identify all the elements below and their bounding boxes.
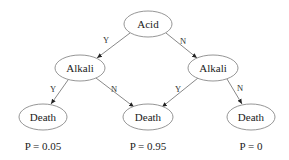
node-alkali-left: Alkali: [55, 55, 105, 81]
node-label: Alkali: [66, 62, 94, 74]
node-label: Death: [30, 111, 57, 123]
probability-label: P = 0: [240, 140, 263, 152]
edge-label: N: [237, 83, 243, 93]
node-label: Alkali: [199, 62, 227, 74]
node-acid: Acid: [124, 11, 172, 37]
edge-alkali_right-to-death_right: N: [227, 79, 243, 104]
node-label: Death: [238, 111, 265, 123]
probability-label: P = 0.95: [130, 140, 167, 152]
edge-alkali_right-to-death_middle: Y: [162, 78, 198, 107]
edge-label: Y: [50, 84, 56, 94]
edge-acid-to-alkali_right: N: [166, 33, 197, 58]
nodes: AcidAlkaliAlkaliDeathDeathDeath: [19, 11, 275, 130]
edge-label: N: [180, 36, 186, 46]
decision-tree-diagram: YNYNYN AcidAlkaliAlkaliDeathDeathDeath P…: [0, 0, 289, 160]
edge-acid-to-alkali_left: Y: [97, 33, 130, 58]
node-alkali-right: Alkali: [188, 55, 238, 81]
edge-label: Y: [175, 84, 181, 94]
node-label: Acid: [137, 18, 159, 30]
edge-label: N: [111, 84, 117, 94]
node-death-middle: Death: [123, 104, 173, 130]
node-death-left: Death: [19, 104, 67, 130]
edge-alkali_left-to-death_middle: N: [96, 78, 134, 107]
probability-labels: P = 0.05P = 0.95P = 0: [25, 140, 263, 152]
edge-label: Y: [103, 35, 109, 45]
node-label: Death: [135, 111, 162, 123]
node-death-right: Death: [227, 104, 275, 130]
edge-alkali_left-to-death_left: Y: [50, 80, 68, 104]
probability-label: P = 0.05: [25, 140, 62, 152]
